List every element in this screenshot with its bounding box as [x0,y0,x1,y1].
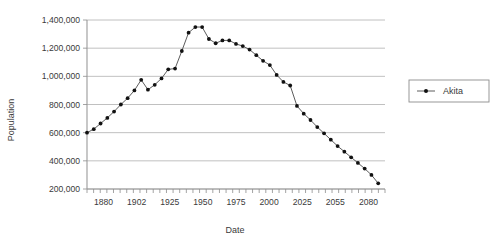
chart-legend[interactable]: Akita [409,80,489,102]
data-point [173,67,177,71]
data-point [349,155,353,159]
data-point [268,63,272,67]
data-point [207,37,211,41]
data-point [322,131,326,135]
population-line-chart: 200,000400,000600,000800,0001,000,0001,2… [0,0,500,245]
chart-background [0,0,500,245]
data-point [295,104,299,108]
data-point [221,39,225,43]
data-point [309,118,313,122]
data-point [248,48,252,52]
data-point [105,116,109,120]
data-point [336,144,340,148]
data-point [166,67,170,71]
data-point [126,96,130,100]
data-point [85,131,89,135]
data-point [227,39,231,43]
chart-container: 200,000400,000600,000800,0001,000,0001,2… [0,0,500,245]
x-tick-label: 1950 [193,197,212,207]
data-point [193,25,197,29]
data-point [329,138,333,142]
data-point [275,73,279,77]
x-axis-title: Date [225,225,244,235]
data-point [261,59,265,63]
data-point [200,25,204,29]
y-tick-label: 600,000 [49,128,80,138]
data-point [214,41,218,45]
y-tick-label: 1,400,000 [42,15,80,25]
data-point [302,112,306,116]
data-point [356,161,360,165]
data-point [234,42,238,46]
data-point [133,89,137,93]
data-point [370,173,374,177]
data-point [153,83,157,87]
data-point [180,49,184,53]
x-axis-tick-labels: 188019021925195019752000202520552080 [94,197,378,207]
data-point [288,84,292,88]
x-tick-label: 1975 [226,197,245,207]
data-point [315,125,319,129]
data-point [254,53,258,57]
data-point [92,127,96,131]
data-point [363,167,367,171]
data-point [139,78,143,82]
legend-swatch-marker [424,89,428,93]
legend-entry-label: Akita [443,86,463,96]
x-tick-label: 1902 [127,197,146,207]
data-point [241,44,245,48]
data-point [282,80,286,84]
y-tick-label: 800,000 [49,100,80,110]
y-tick-label: 1,200,000 [42,43,80,53]
x-tick-label: 1925 [160,197,179,207]
data-point [119,103,123,107]
x-tick-label: 2025 [293,197,312,207]
data-point [146,88,150,92]
data-point [160,77,164,81]
x-tick-label: 1880 [94,197,113,207]
y-axis-title: Population [6,99,16,142]
x-tick-label: 2055 [326,197,345,207]
x-tick-label: 2080 [359,197,378,207]
x-tick-label: 2000 [260,197,279,207]
y-tick-label: 400,000 [49,156,80,166]
data-point [112,110,116,114]
data-point [187,31,191,35]
y-tick-label: 1,000,000 [42,71,80,81]
y-tick-label: 200,000 [49,184,80,194]
data-point [376,181,380,185]
data-point [99,122,103,126]
data-point [342,150,346,154]
